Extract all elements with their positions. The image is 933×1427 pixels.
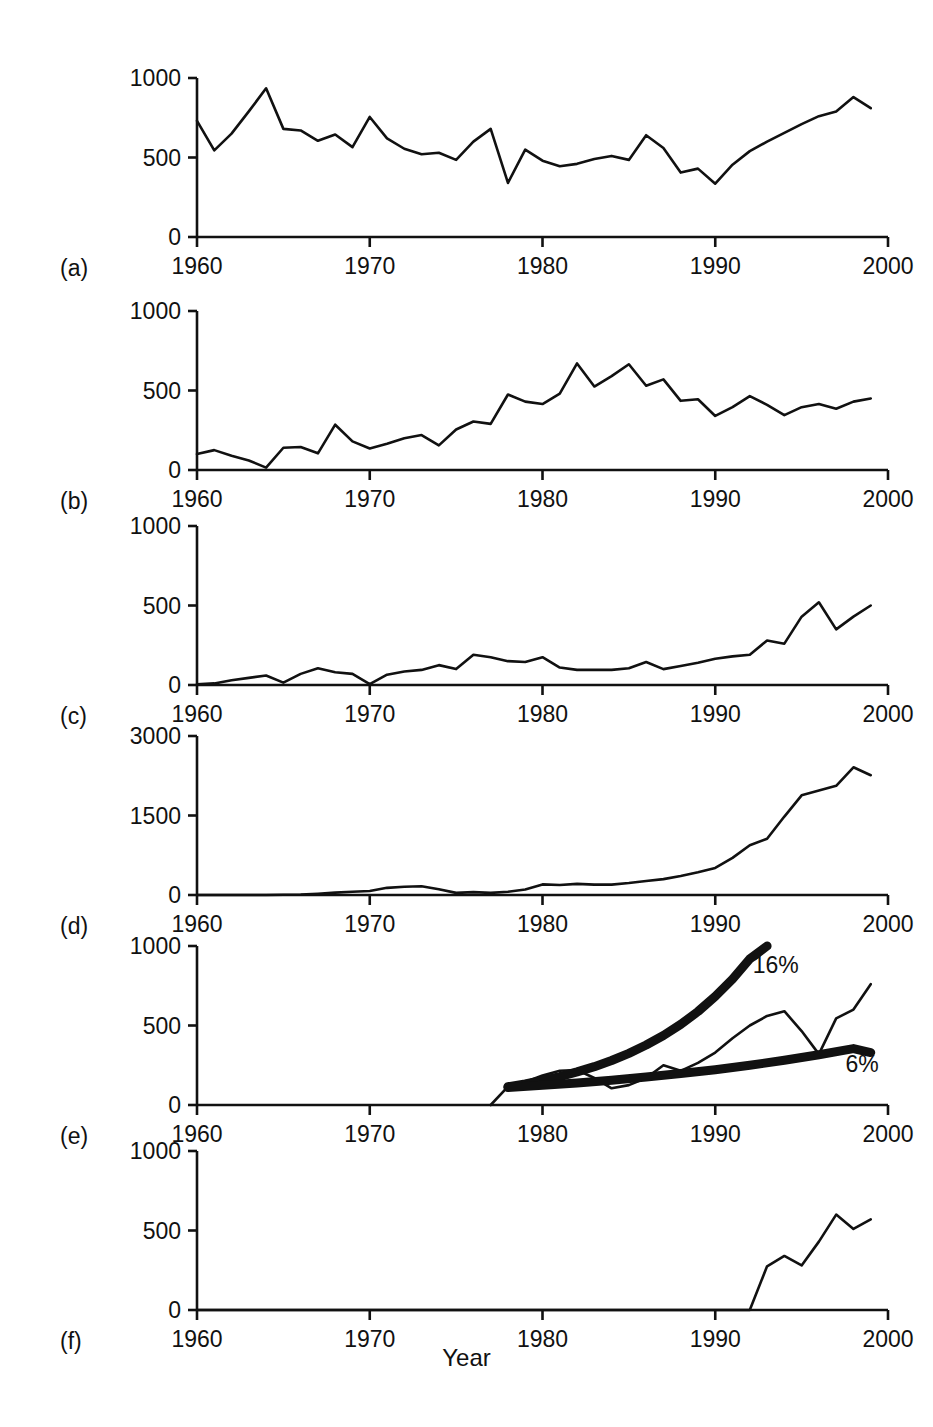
y-tick-label: 3000 xyxy=(130,723,181,749)
panel-c: 0500100019601970198019902000(c) xyxy=(0,500,933,732)
panel-c-plot: 0500100019601970198019902000 xyxy=(0,500,933,732)
x-axis-label: Year xyxy=(0,1344,933,1372)
x-tick-label: 1970 xyxy=(344,253,395,279)
panel-b-data-line xyxy=(197,363,871,467)
panel-e: 050010001960197019801990200016%6%(e) xyxy=(0,920,933,1152)
seal-pup-figure: Number of seal pups 05001000196019701980… xyxy=(0,0,933,1427)
y-tick-label: 0 xyxy=(168,882,181,908)
annotation-16pct: 16% xyxy=(753,952,799,978)
panel-d-plot: 01500300019601970198019902000 xyxy=(0,710,933,942)
y-tick-label: 1000 xyxy=(130,298,181,324)
panel-a-data-line xyxy=(197,88,871,183)
y-tick-label: 500 xyxy=(143,145,181,171)
panel-b: 0500100019601970198019902000(b) xyxy=(0,285,933,517)
y-tick-label: 500 xyxy=(143,378,181,404)
y-tick-label: 500 xyxy=(143,593,181,619)
y-tick-label: 1000 xyxy=(130,513,181,539)
x-tick-label: 1960 xyxy=(171,253,222,279)
y-tick-label: 1000 xyxy=(130,933,181,959)
panel-f-data-line xyxy=(197,1215,871,1310)
x-tick-label: 2000 xyxy=(862,253,913,279)
panel-c-data-line xyxy=(197,602,871,684)
x-axis-label-text: Year xyxy=(442,1344,491,1371)
annotation-6pct: 6% xyxy=(845,1051,878,1077)
y-tick-label: 0 xyxy=(168,457,181,483)
y-tick-label: 0 xyxy=(168,672,181,698)
panel-e-plot: 050010001960197019801990200016%6% xyxy=(0,920,933,1152)
panel-a-plot: 0500100019601970198019902000 xyxy=(0,52,933,284)
y-tick-label: 1500 xyxy=(130,803,181,829)
y-tick-label: 1000 xyxy=(130,65,181,91)
y-tick-label: 500 xyxy=(143,1013,181,1039)
y-tick-label: 0 xyxy=(168,1092,181,1118)
y-tick-label: 0 xyxy=(168,224,181,250)
panel-d-data-line xyxy=(197,767,871,895)
panel-f: 0500100019601970198019902000(f) xyxy=(0,1125,933,1357)
x-tick-label: 1990 xyxy=(690,253,741,279)
panel-a: 0500100019601970198019902000(a) xyxy=(0,52,933,284)
panel-tag-a: (a) xyxy=(60,257,88,280)
y-tick-label: 1000 xyxy=(130,1138,181,1164)
y-tick-label: 0 xyxy=(168,1297,181,1323)
y-tick-label: 500 xyxy=(143,1218,181,1244)
panel-f-plot: 0500100019601970198019902000 xyxy=(0,1125,933,1357)
panel-b-plot: 0500100019601970198019902000 xyxy=(0,285,933,517)
x-tick-label: 1980 xyxy=(517,253,568,279)
panel-d: 01500300019601970198019902000(d) xyxy=(0,710,933,942)
